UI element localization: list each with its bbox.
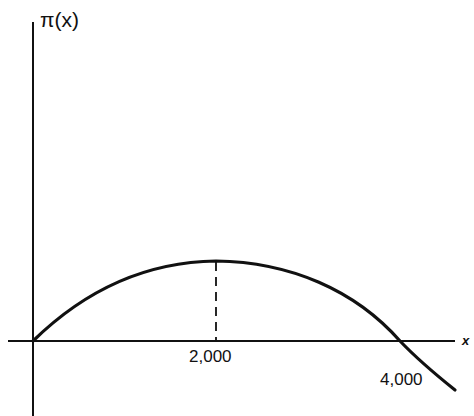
- chart-canvas: π(x) x 2,000 4,000: [0, 0, 474, 416]
- x-axis-label: x: [461, 333, 470, 348]
- y-axis-label: π(x): [40, 8, 79, 31]
- tick-label-4000: 4,000: [380, 370, 423, 389]
- profit-function-chart: π(x) x 2,000 4,000: [0, 0, 474, 416]
- tick-label-2000: 2,000: [189, 347, 232, 366]
